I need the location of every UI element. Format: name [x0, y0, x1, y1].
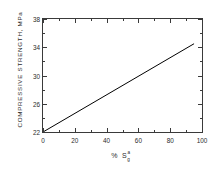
x-axis-tick-bottom — [59, 130, 60, 132]
x-axis-tick-bottom — [107, 128, 108, 132]
x-axis-tick-top — [170, 19, 171, 23]
y-axis-tick-left — [43, 132, 47, 133]
y-axis-tick-left — [43, 47, 47, 48]
x-axis-tick-top — [75, 19, 76, 23]
y-tick-label: 30 — [26, 72, 40, 79]
x-axis-title-superscript: a — [127, 150, 130, 155]
x-axis-tick-bottom — [202, 128, 203, 132]
series-polyline — [43, 44, 194, 132]
x-axis-tick-top — [138, 19, 139, 23]
plot-area — [42, 18, 203, 133]
x-tick-label: 100 — [192, 137, 212, 144]
y-axis-tick-right — [200, 118, 202, 119]
x-tick-label: 0 — [33, 137, 53, 144]
y-axis-tick-right — [198, 19, 202, 20]
y-axis-tick-left — [43, 61, 45, 62]
y-tick-label: 34 — [26, 44, 40, 51]
x-tick-label: 60 — [128, 137, 148, 144]
y-axis-tick-right — [200, 33, 202, 34]
x-axis-title: %Sag — [42, 152, 203, 159]
x-tick-label: 80 — [160, 137, 180, 144]
x-axis-tick-bottom — [138, 128, 139, 132]
x-axis-tick-bottom — [75, 128, 76, 132]
x-axis-tick-bottom — [154, 130, 155, 132]
x-axis-title-subscript: g — [127, 157, 130, 162]
y-axis-tick-left — [43, 33, 45, 34]
y-axis-tick-labels: 2226303438 — [24, 18, 40, 133]
x-tick-label: 20 — [65, 137, 85, 144]
y-axis-tick-right — [198, 104, 202, 105]
y-axis-tick-right — [200, 90, 202, 91]
y-axis-tick-right — [198, 132, 202, 133]
x-axis-tick-top — [202, 19, 203, 23]
chart-figure: COMPRESSIVE STRENGTH, MPa %Sag 222630343… — [0, 0, 219, 173]
x-axis-tick-bottom — [170, 128, 171, 132]
x-axis-tick-labels: 020406080100 — [42, 137, 203, 149]
x-axis-tick-bottom — [123, 130, 124, 132]
x-axis-title-percent: % — [111, 152, 118, 159]
y-axis-tick-right — [198, 76, 202, 77]
y-axis-tick-left — [43, 76, 47, 77]
x-axis-tick-top — [59, 19, 60, 21]
x-axis-tick-top — [186, 19, 187, 21]
x-axis-tick-top — [91, 19, 92, 21]
data-series-line — [43, 19, 202, 132]
y-axis-tick-left — [43, 104, 47, 105]
y-axis-tick-right — [200, 61, 202, 62]
y-axis-tick-left — [43, 19, 47, 20]
x-axis-tick-top — [154, 19, 155, 21]
y-tick-label: 26 — [26, 100, 40, 107]
y-tick-label: 38 — [26, 16, 40, 23]
y-axis-tick-left — [43, 90, 45, 91]
x-axis-tick-bottom — [91, 130, 92, 132]
x-tick-label: 40 — [97, 137, 117, 144]
y-axis-tick-right — [198, 47, 202, 48]
x-axis-tick-top — [107, 19, 108, 23]
y-axis-title: COMPRESSIVE STRENGTH, MPa — [16, 5, 23, 135]
y-axis-tick-left — [43, 118, 45, 119]
y-tick-label: 22 — [26, 129, 40, 136]
x-axis-tick-bottom — [186, 130, 187, 132]
x-axis-tick-top — [123, 19, 124, 21]
